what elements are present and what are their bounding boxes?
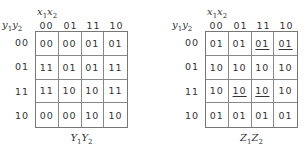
column-variable-label: x1x2 xyxy=(207,6,227,20)
karnaugh-grid: 01010101101010101010101001010101 xyxy=(205,31,298,128)
row-header: 00 xyxy=(175,37,199,48)
column-header: 10 xyxy=(275,20,298,31)
map-cell: 10 xyxy=(229,80,252,104)
map-cell: 01 xyxy=(274,32,297,56)
karnaugh-map-output: x1x2y1y200011110000111100101010110101010… xyxy=(0,0,306,152)
map-cell: 10 xyxy=(252,56,275,80)
cell-value: 01 xyxy=(233,110,247,121)
cell-value: 10 xyxy=(210,85,224,96)
map-cell: 10 xyxy=(206,80,229,104)
map-cell: 10 xyxy=(274,80,297,104)
map-cell: 01 xyxy=(206,103,229,127)
row-header: 10 xyxy=(175,110,199,121)
map-cell: 01 xyxy=(252,32,275,56)
map-cell: 10 xyxy=(206,56,229,80)
map-cell: 10 xyxy=(274,56,297,80)
cell-value: 10 xyxy=(279,62,293,73)
cell-value: 10 xyxy=(279,85,293,96)
map-cell: 01 xyxy=(252,103,275,127)
map-cell: 01 xyxy=(206,32,229,56)
cell-value: 10 xyxy=(233,62,247,73)
row-variable-label: y1y2 xyxy=(172,19,192,33)
cell-value: 01 xyxy=(233,38,247,49)
cell-value: 10 xyxy=(255,62,269,73)
cell-value: 01 xyxy=(255,110,269,121)
map-caption: Z1Z2 xyxy=(205,132,298,146)
column-header: 00 xyxy=(205,20,228,31)
cell-value: 10 xyxy=(210,62,224,73)
cell-value: 01 xyxy=(210,110,224,121)
cell-value: 01 xyxy=(210,38,224,49)
map-cell: 10 xyxy=(229,56,252,80)
row-header: 11 xyxy=(175,86,199,97)
underlined-cell-value: 01 xyxy=(255,38,269,49)
column-header: 01 xyxy=(229,20,252,31)
underlined-cell-value: 10 xyxy=(255,85,269,96)
cell-value: 01 xyxy=(279,110,293,121)
underlined-cell-value: 01 xyxy=(279,38,293,49)
column-header: 11 xyxy=(252,20,275,31)
map-cell: 01 xyxy=(229,103,252,127)
row-header: 01 xyxy=(175,61,199,72)
map-cell: 10 xyxy=(252,80,275,104)
map-cell: 01 xyxy=(274,103,297,127)
underlined-cell-value: 10 xyxy=(233,85,247,96)
map-cell: 01 xyxy=(229,32,252,56)
